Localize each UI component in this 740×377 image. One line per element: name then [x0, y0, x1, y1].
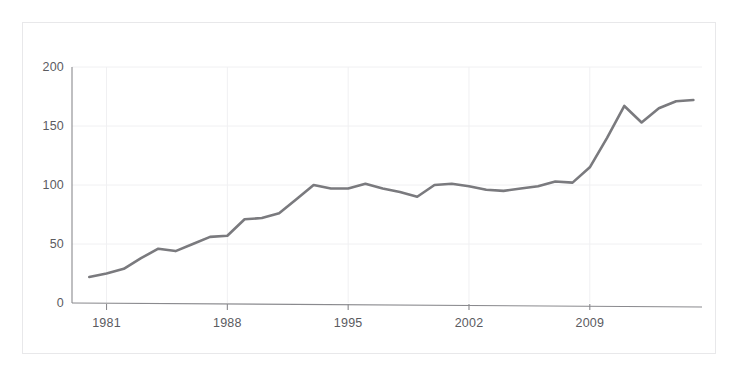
y-axis-tick-label: 200	[20, 60, 64, 74]
chart-figure: 050100150200 19811988199520022009	[0, 0, 740, 377]
x-axis-line	[72, 303, 702, 307]
y-axis-tick-label: 0	[20, 296, 64, 310]
x-axis-tick-label: 2009	[575, 316, 604, 330]
data-line	[89, 100, 693, 277]
x-axis-tick-label: 1981	[92, 316, 121, 330]
gridlines	[72, 67, 702, 303]
x-axis-tick-label: 1995	[334, 316, 363, 330]
y-axis-tick-label: 150	[20, 119, 64, 133]
x-axis-tick-label: 2002	[455, 316, 484, 330]
y-axis-tick-label: 100	[20, 178, 64, 192]
y-axis-tick-label: 50	[20, 237, 64, 251]
x-axis-tick-label: 1988	[213, 316, 242, 330]
